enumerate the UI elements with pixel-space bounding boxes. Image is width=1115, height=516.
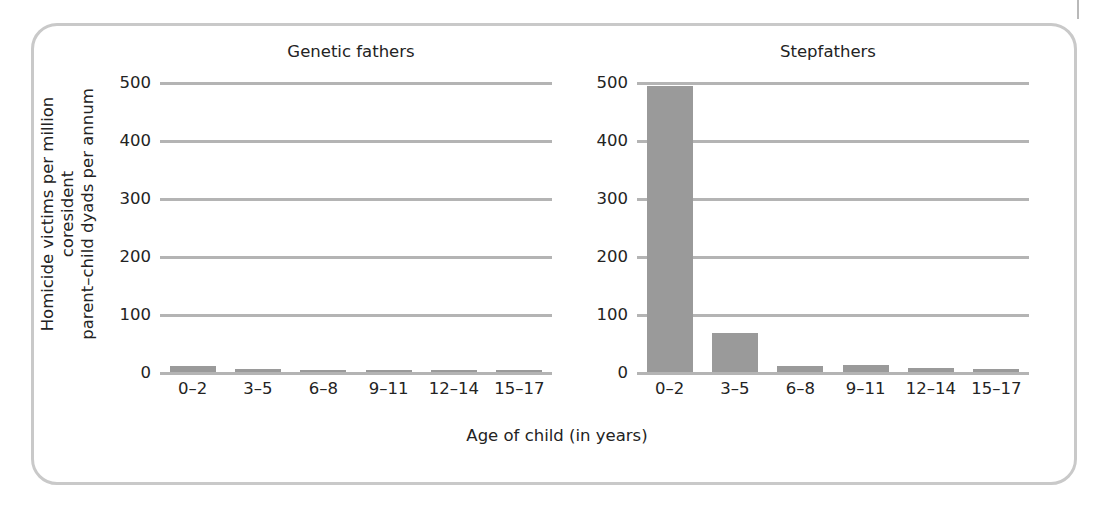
- bar[interactable]: [496, 370, 542, 372]
- xtick-label: 0–2: [178, 379, 207, 398]
- bar-slot: 15–17: [487, 82, 552, 372]
- bar[interactable]: [712, 333, 758, 372]
- xtick-label: 3–5: [243, 379, 272, 398]
- bar-slot: 12–14: [898, 82, 963, 372]
- ytick-500: 500: [120, 73, 152, 92]
- xtick-label: 9–11: [369, 379, 409, 398]
- xtick-label: 15–17: [971, 379, 1021, 398]
- x-axis-title: Age of child (in years): [34, 426, 1080, 445]
- bar[interactable]: [235, 369, 281, 372]
- plot-box-stepfathers: 500 400 300 200 100 0: [637, 82, 1029, 372]
- ytick-200: 200: [597, 247, 629, 266]
- xtick-label: 6–8: [786, 379, 815, 398]
- ytick-0: 0: [618, 363, 629, 382]
- bar-slot: 9–11: [356, 82, 421, 372]
- bar[interactable]: [843, 365, 889, 372]
- gridline-0: 0: [160, 372, 552, 375]
- ytick-400: 400: [120, 131, 152, 150]
- bar[interactable]: [647, 86, 693, 372]
- bar[interactable]: [431, 370, 477, 372]
- bar[interactable]: [908, 368, 954, 372]
- xtick-label: 12–14: [906, 379, 956, 398]
- ytick-200: 200: [120, 247, 152, 266]
- bar-slot: 9–11: [833, 82, 898, 372]
- ytick-0: 0: [141, 363, 152, 382]
- ytick-100: 100: [597, 305, 629, 324]
- ytick-100: 100: [120, 305, 152, 324]
- bar[interactable]: [777, 366, 823, 372]
- bar-slot: 6–8: [768, 82, 833, 372]
- panel-title-stepfathers: Stepfathers: [627, 42, 1029, 61]
- y-axis-title: Homicide victims per million coresident …: [38, 59, 98, 369]
- panel-title-genetic-fathers: Genetic fathers: [150, 42, 552, 61]
- xtick-label: 0–2: [655, 379, 684, 398]
- xtick-label: 6–8: [309, 379, 338, 398]
- bars-stepfathers: 0–2 3–5 6–8 9–11: [637, 82, 1029, 372]
- bar-slot: 3–5: [702, 82, 767, 372]
- xtick-label: 9–11: [846, 379, 886, 398]
- bars-genetic-fathers: 0–2 3–5 6–8 9–11: [160, 82, 552, 372]
- ytick-300: 300: [120, 189, 152, 208]
- panel-stepfathers: Stepfathers 500 400 300 200 100 0: [579, 42, 1029, 422]
- scan-artifact: [1077, 0, 1079, 19]
- bar[interactable]: [170, 366, 216, 372]
- bar-slot: 15–17: [964, 82, 1029, 372]
- xtick-label: 3–5: [720, 379, 749, 398]
- bar[interactable]: [300, 370, 346, 372]
- bar-slot: 0–2: [637, 82, 702, 372]
- plot-box-genetic-fathers: 500 400 300 200 100 0: [160, 82, 552, 372]
- bar-slot: 12–14: [421, 82, 486, 372]
- bar-slot: 6–8: [291, 82, 356, 372]
- ytick-500: 500: [597, 73, 629, 92]
- figure-frame: Homicide victims per million coresident …: [31, 23, 1077, 485]
- ytick-300: 300: [597, 189, 629, 208]
- ytick-400: 400: [597, 131, 629, 150]
- panel-genetic-fathers: Genetic fathers 500 400 300 200 100: [102, 42, 552, 422]
- xtick-label: 15–17: [494, 379, 544, 398]
- bar[interactable]: [973, 369, 1019, 372]
- chart-area: Homicide victims per million coresident …: [34, 26, 1080, 488]
- bar[interactable]: [366, 370, 412, 372]
- gridline-0: 0: [637, 372, 1029, 375]
- bar-slot: 0–2: [160, 82, 225, 372]
- xtick-label: 12–14: [429, 379, 479, 398]
- bar-slot: 3–5: [225, 82, 290, 372]
